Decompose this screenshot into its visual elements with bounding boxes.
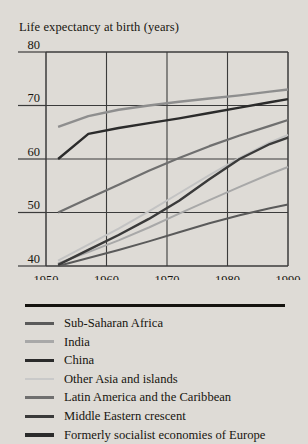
legend-item-label: China — [64, 354, 94, 367]
legend-item[interactable]: Sub-Saharan Africa — [0, 314, 308, 333]
legend-item[interactable]: Middle Eastern crescent — [0, 407, 308, 426]
line-chart: 405060708019501960197019801990 — [0, 40, 308, 280]
x-tick-label: 1950 — [34, 273, 59, 280]
series-line-middle-eastern-crescent — [58, 138, 288, 265]
y-tick-label: 50 — [28, 198, 41, 212]
legend-divider — [25, 304, 285, 307]
legend-item-label: Middle Eastern crescent — [64, 410, 186, 423]
x-tick-label: 1960 — [94, 273, 119, 280]
series-line-sub-saharan-africa — [58, 204, 288, 266]
legend-swatch-line-icon — [25, 415, 54, 418]
x-tick-label: 1970 — [155, 273, 180, 280]
series-line-formerly-socialist-economies-of-europe — [58, 89, 288, 126]
y-tick-label: 80 — [28, 40, 41, 52]
legend-swatch-line-icon — [25, 359, 54, 362]
legend-item-label: Sub-Saharan Africa — [64, 317, 163, 330]
y-tick-label: 60 — [28, 145, 41, 159]
chart-title: Life expectancy at birth (years) — [19, 20, 179, 35]
legend-swatch-line-icon — [25, 378, 54, 381]
legend-list: Sub-Saharan AfricaIndiaChinaOther Asia a… — [0, 314, 308, 444]
legend-swatch-line-icon — [25, 396, 54, 399]
y-tick-label: 70 — [28, 91, 41, 105]
plot-area: 405060708019501960197019801990 — [0, 40, 308, 280]
legend-item-label: Latin America and the Caribbean — [64, 391, 231, 404]
legend-swatch-line-icon — [25, 340, 54, 343]
x-tick-label: 1990 — [276, 273, 301, 280]
legend-item[interactable]: Latin America and the Caribbean — [0, 388, 308, 407]
legend-swatch-line-icon — [25, 433, 54, 436]
legend-item[interactable]: China — [0, 351, 308, 370]
legend-item-label: Formerly socialist economies of Europe — [64, 429, 265, 442]
legend-item-label: Other Asia and islands — [64, 373, 178, 386]
legend-item[interactable]: India — [0, 333, 308, 352]
legend-item[interactable]: Other Asia and islands — [0, 370, 308, 389]
x-tick-label: 1980 — [215, 273, 240, 280]
y-tick-label: 40 — [28, 252, 41, 266]
legend-swatch-line-icon — [25, 322, 54, 325]
legend-item-label: India — [64, 336, 90, 349]
legend-item[interactable]: Formerly socialist economies of Europe — [0, 426, 308, 444]
